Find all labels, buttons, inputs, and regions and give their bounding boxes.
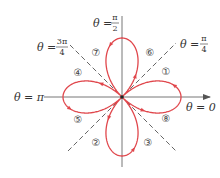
label-theta-pi: θ = π: [14, 91, 45, 104]
svg-text:4: 4: [201, 45, 206, 54]
label-theta-pi-2: θ = π 2: [93, 13, 119, 33]
label-theta-0: θ = 0: [186, 101, 216, 114]
marker-7: ⑦: [92, 47, 101, 58]
label-theta-pi-4: θ = π 4: [180, 34, 208, 54]
svg-text:θ = 0: θ = 0: [186, 101, 216, 114]
svg-text:θ =: θ =: [37, 41, 56, 54]
origin-point: [120, 95, 124, 99]
svg-text:4: 4: [59, 48, 64, 57]
svg-text:θ =: θ =: [93, 17, 112, 30]
svg-text:θ = π: θ = π: [14, 91, 45, 104]
svg-text:θ =: θ =: [180, 38, 199, 51]
svg-text:2: 2: [112, 24, 117, 33]
marker-5: ⑤: [74, 114, 83, 125]
svg-text:π: π: [201, 34, 206, 43]
rose-curve-figure: θ = π 2 θ = π 4 θ = 3π 4 θ = π θ = 0 ① ②…: [0, 0, 220, 178]
marker-2: ②: [92, 137, 101, 148]
marker-4: ④: [74, 67, 83, 78]
svg-text:π: π: [112, 13, 117, 22]
svg-text:3π: 3π: [57, 37, 67, 46]
marker-1: ①: [162, 66, 171, 77]
marker-8: ⑧: [162, 113, 171, 124]
marker-3: ③: [144, 137, 153, 148]
label-theta-3pi-4: θ = 3π 4: [37, 37, 68, 57]
marker-6: ⑥: [146, 47, 155, 58]
